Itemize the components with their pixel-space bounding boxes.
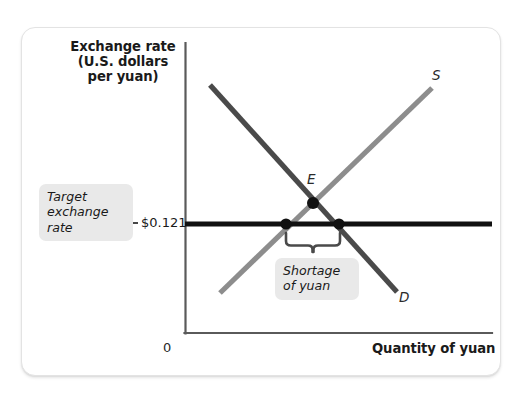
shortage-brace (286, 233, 340, 252)
target-rate-callout: Target exchange rate (39, 184, 133, 241)
demand-curve-label: D (399, 290, 409, 305)
x-axis-title: Quantity of yuan (372, 342, 492, 357)
quantity-demanded-point (333, 218, 344, 229)
quantity-supplied-point (280, 218, 291, 229)
equilibrium-point-label: E (307, 172, 316, 187)
shortage-callout: Shortage of yuan (275, 258, 359, 300)
target-rate-value: $0.121 (141, 216, 187, 231)
figure-root: Exchange rate (U.S. dollars per yuan) Qu… (0, 0, 526, 402)
y-axis-title: Exchange rate (U.S. dollars per yuan) (64, 40, 182, 84)
origin-label: 0 (163, 341, 171, 356)
supply-curve-label: S (432, 68, 441, 83)
equilibrium-point (307, 197, 319, 209)
